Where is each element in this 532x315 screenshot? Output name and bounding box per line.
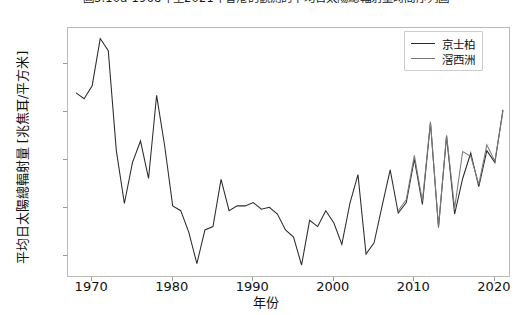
legend-item[interactable]: 滘西洲 <box>411 51 475 66</box>
x-axis-label: 年份 <box>0 292 532 311</box>
chart-title: 圖3.10a 1968年至2021年香港的觀測的平均日太陽總輻射量時間序列圖 <box>0 0 532 5</box>
legend-item[interactable]: 京士柏 <box>411 36 475 51</box>
legend-line-swatch <box>411 58 435 59</box>
y-axis-label: 平均日太陽總輻射量 [兆焦耳/平方米] <box>12 33 31 283</box>
data-series-line <box>76 39 503 265</box>
x-tick-label: 2020 <box>472 280 516 293</box>
x-tick-label: 1990 <box>230 280 274 293</box>
legend-label: 滘西洲 <box>442 51 475 67</box>
chart-legend: 京士柏滘西洲 <box>404 31 483 71</box>
x-tick-label: 1970 <box>69 280 113 293</box>
chart-figure: 圖3.10a 1968年至2021年香港的觀測的平均日太陽總輻射量時間序列圖 平… <box>0 0 532 315</box>
x-tick-label: 2000 <box>311 280 355 293</box>
legend-line-swatch <box>411 43 435 44</box>
data-series-line <box>398 111 503 226</box>
x-tick-label: 2010 <box>391 280 435 293</box>
legend-label: 京士柏 <box>442 36 475 52</box>
x-tick-label: 1980 <box>150 280 194 293</box>
